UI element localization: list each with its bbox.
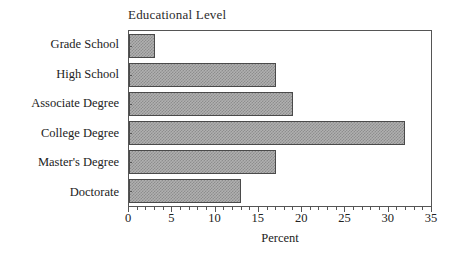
x-axis-minor-tick (137, 207, 138, 210)
chart-title: Educational Level (128, 7, 226, 23)
bar-row (129, 177, 431, 206)
x-axis-minor-tick (292, 207, 293, 210)
x-axis-tick-label: 0 (125, 211, 131, 226)
y-axis-tick (128, 104, 132, 105)
bar-chart: Educational Level Grade SchoolHigh Schoo… (0, 0, 456, 255)
x-axis-minor-tick (267, 207, 268, 210)
x-axis-minor-tick (197, 207, 198, 210)
bars-container (129, 31, 431, 206)
category-label: College Degree (0, 119, 124, 149)
x-axis-tick-label: 35 (425, 211, 438, 226)
x-axis-minor-tick (206, 207, 207, 210)
x-axis-minor-tick (189, 207, 190, 210)
bar (129, 179, 241, 203)
bar (129, 63, 276, 87)
x-axis-tick-labels: 05101520253035 (128, 211, 432, 229)
x-axis-minor-tick (422, 207, 423, 210)
category-label: Doctorate (0, 178, 124, 208)
x-axis-minor-tick (362, 207, 363, 210)
x-axis-minor-tick (284, 207, 285, 210)
x-axis-minor-tick (370, 207, 371, 210)
bar-row (129, 60, 431, 89)
x-axis-minor-tick (327, 207, 328, 210)
y-axis-tick (128, 162, 132, 163)
x-axis-minor-tick (336, 207, 337, 210)
x-axis-minor-tick (180, 207, 181, 210)
x-axis-tick-label: 20 (295, 211, 308, 226)
x-axis-minor-tick (223, 207, 224, 210)
category-label: Associate Degree (0, 89, 124, 119)
x-axis-minor-tick (275, 207, 276, 210)
y-axis-tick (128, 75, 132, 76)
bar (129, 92, 293, 116)
x-axis-minor-tick (405, 207, 406, 210)
y-axis-tick (128, 46, 132, 47)
x-axis-minor-tick (414, 207, 415, 210)
bar (129, 150, 276, 174)
bar (129, 34, 155, 58)
x-axis-minor-tick (396, 207, 397, 210)
x-axis-tick-label: 30 (381, 211, 394, 226)
bar-row (129, 148, 431, 177)
x-axis-minor-tick (154, 207, 155, 210)
x-axis-tick-label: 25 (338, 211, 351, 226)
category-label: Grade School (0, 30, 124, 60)
category-axis-labels: Grade SchoolHigh SchoolAssociate DegreeC… (0, 30, 124, 207)
x-axis-minor-tick (232, 207, 233, 210)
x-axis-minor-tick (163, 207, 164, 210)
x-axis-minor-tick (241, 207, 242, 210)
bar (129, 121, 405, 145)
x-axis-tick-label: 15 (252, 211, 265, 226)
bar-row (129, 119, 431, 148)
y-axis-tick (128, 191, 132, 192)
y-axis-tick (128, 133, 132, 134)
bar-row (129, 31, 431, 60)
x-axis-tick-label: 5 (168, 211, 174, 226)
x-axis-minor-tick (145, 207, 146, 210)
x-axis-tick-label: 10 (208, 211, 221, 226)
x-axis-minor-tick (310, 207, 311, 210)
x-axis-minor-tick (353, 207, 354, 210)
category-label: High School (0, 60, 124, 90)
x-axis-minor-tick (249, 207, 250, 210)
x-axis-minor-tick (379, 207, 380, 210)
x-axis-title: Percent (128, 231, 432, 246)
x-axis-minor-tick (318, 207, 319, 210)
bar-row (129, 89, 431, 118)
category-label: Master's Degree (0, 148, 124, 178)
